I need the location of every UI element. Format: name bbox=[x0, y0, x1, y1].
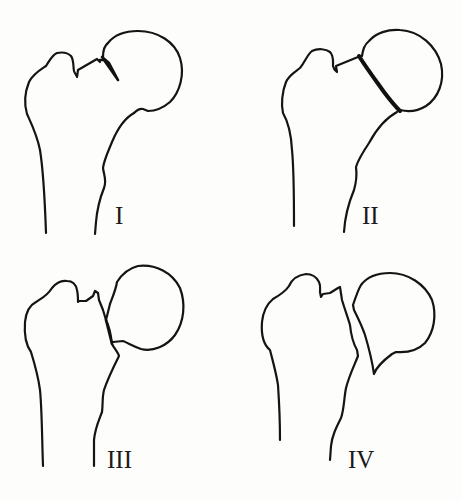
panel-III-femoral-head bbox=[106, 266, 183, 350]
panel-IV-femur bbox=[262, 273, 435, 460]
panel-label-IV: IV bbox=[348, 447, 374, 472]
garden-classification-figure: I II III IV bbox=[0, 0, 462, 500]
panel-label-III: III bbox=[107, 447, 132, 472]
panel-II-fracture-line bbox=[359, 56, 400, 111]
panel-I-fracture-line bbox=[100, 57, 118, 80]
panel-label-I: I bbox=[115, 203, 123, 228]
panel-label-II: II bbox=[362, 203, 379, 228]
panel-I-lateral-outline bbox=[25, 53, 100, 233]
panel-IV-femoral-head bbox=[353, 273, 434, 374]
femur-drawings bbox=[0, 0, 462, 500]
panel-I-femur bbox=[25, 31, 182, 234]
panel-IV-lateral-outline bbox=[262, 274, 358, 440]
panel-III-femur bbox=[25, 266, 184, 466]
panel-IV-medial-outline bbox=[330, 356, 358, 460]
panel-II-lateral-outline bbox=[282, 49, 360, 226]
panel-II-femoral-head bbox=[362, 30, 442, 111]
